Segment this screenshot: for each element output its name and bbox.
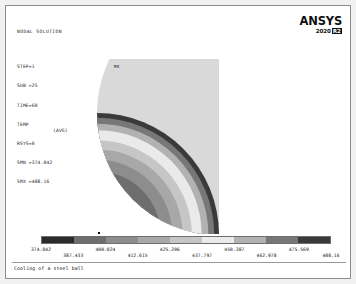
info-key-sub: SUB =25 xyxy=(17,83,38,89)
colorbar-tick-label: 387.433 xyxy=(63,253,83,258)
colorbar-segment-8 xyxy=(266,237,298,243)
contour-plot-quarter-sphere[interactable] xyxy=(97,59,219,234)
info-key-temp: TEMP xyxy=(17,122,29,128)
info-key-smn: SMN =374.042 xyxy=(17,160,52,166)
colorbar-tick-label: 462.978 xyxy=(257,253,277,258)
colorbar-segment-7 xyxy=(234,237,266,243)
info-row-sub: SUB =25 xyxy=(17,77,107,83)
info-row-rsys: RSYS=0 xyxy=(17,135,107,141)
max-location-label: MX xyxy=(114,64,119,69)
colorbar-segment-2 xyxy=(74,237,106,243)
colorbar-segment-6 xyxy=(202,237,234,243)
colorbar-segment-9 xyxy=(298,237,330,243)
plot-canvas[interactable]: NODAL SOLUTION STEP=1 SUB =25 TIME=60 TE… xyxy=(12,12,346,234)
info-row-temp: TEMP (AVG) xyxy=(17,115,107,121)
ansys-logo: ANSYS 2020R2 xyxy=(300,16,342,35)
colorbar-tick-label: 475.569 xyxy=(289,247,309,252)
info-key-smx: SMX =488.16 xyxy=(17,179,49,185)
origin-marker-icon xyxy=(98,232,100,234)
colorbar-segment-4 xyxy=(138,237,170,243)
info-row-smn: SMN =374.042 xyxy=(17,154,107,160)
ansys-version: 2020R2 xyxy=(300,28,342,35)
colorbar-tick-label: 412.615 xyxy=(128,253,148,258)
info-row-smx: SMX =488.16 xyxy=(17,173,107,179)
colorbar-tick-label: 450.387 xyxy=(224,247,244,252)
info-key-step: STEP=1 xyxy=(17,64,35,70)
colorbar-tick-label: 488.16 xyxy=(322,253,339,258)
contour-bands-group xyxy=(97,59,219,234)
info-row-time: TIME=60 xyxy=(17,96,107,102)
colorbar-tick-label: 437.797 xyxy=(192,253,212,258)
colorbar[interactable] xyxy=(41,236,331,244)
caption-bar: Cooling of a steel ball xyxy=(12,262,346,275)
colorbar-tick-label: 425.206 xyxy=(160,247,180,252)
info-key-rsys: RSYS=0 xyxy=(17,141,35,147)
info-row-step: STEP=1 xyxy=(17,58,107,64)
solution-title: NODAL SOLUTION xyxy=(17,29,107,35)
colorbar-tick-label: 400.024 xyxy=(95,247,115,252)
ansys-version-release: R2 xyxy=(332,28,342,34)
colorbar-tick-label: 374.042 xyxy=(31,247,51,252)
info-key-time: TIME=60 xyxy=(17,103,38,109)
colorbar-segment-1 xyxy=(42,237,74,243)
ansys-graphics-window: NODAL SOLUTION STEP=1 SUB =25 TIME=60 TE… xyxy=(5,5,351,279)
caption-text: Cooling of a steel ball xyxy=(14,266,84,271)
ansys-version-year: 2020 xyxy=(316,28,331,34)
colorbar-segment-3 xyxy=(106,237,138,243)
solution-info-block: NODAL SOLUTION STEP=1 SUB =25 TIME=60 TE… xyxy=(17,16,107,192)
colorbar-segment-5 xyxy=(170,237,202,243)
ansys-brand-text: ANSYS xyxy=(300,16,342,27)
